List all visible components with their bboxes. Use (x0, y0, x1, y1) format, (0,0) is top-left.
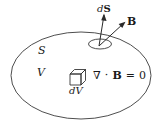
divergence-equation: ∇ · B = 0 (93, 70, 146, 81)
volume-element-cube (70, 70, 86, 86)
volume-element-label: dV (69, 86, 83, 96)
surface-element-label: dS (97, 4, 111, 14)
ds-normal-arrow (99, 14, 107, 47)
surface-label: S (38, 45, 46, 56)
equation-b-glyph: B (112, 69, 122, 82)
zero-glyph: 0 (139, 69, 146, 82)
ds-s-glyph: S (103, 3, 110, 14)
dot-operator-glyph: · (105, 69, 109, 82)
equals-glyph: = (126, 69, 136, 82)
b-field-label: B (127, 16, 136, 27)
nabla-glyph: ∇ (93, 69, 101, 82)
magnetism-diagram: S V dS B dV ∇ · B = 0 (0, 0, 162, 133)
volume-label: V (37, 67, 45, 78)
diagram-canvas (0, 0, 162, 133)
